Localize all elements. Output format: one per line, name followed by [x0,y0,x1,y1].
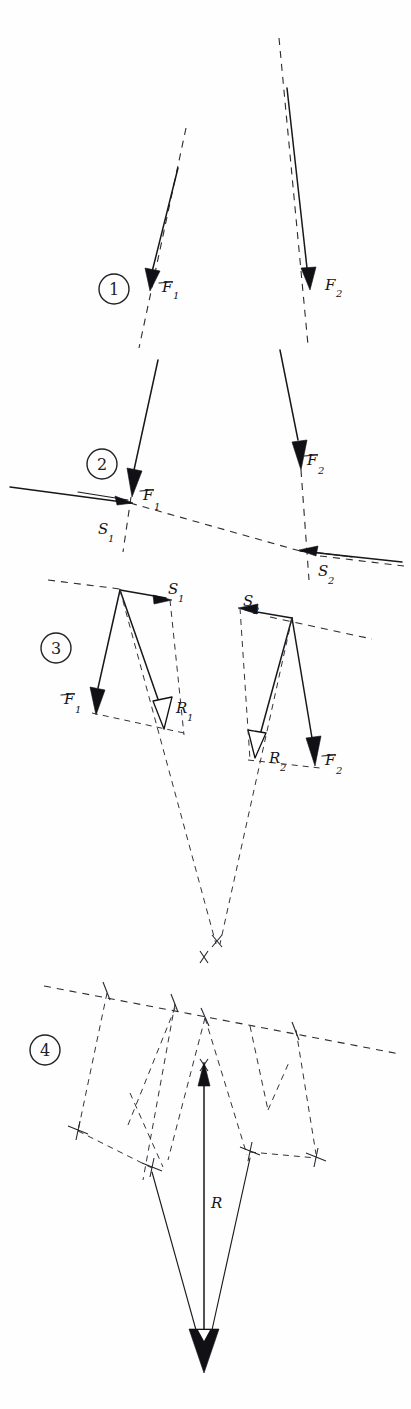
step4-tick-line-c [201,1008,209,1026]
step-3-label-f1-sub: 1 [75,704,81,715]
f1-vector-shaft [152,168,178,272]
step4-tick-cross-left [68,1121,88,1140]
step4-dash-left-outer [78,993,107,1131]
step2-f2-arrowhead [292,440,307,470]
r-converge-right [212,1158,250,1330]
step-2-label-s1-sub: 1 [108,533,114,544]
step-1-label-f2-sub: 2 [335,288,342,299]
step-2-label-s2-sub: 2 [327,575,334,586]
step-1-group: 1 F 1 F 2 [99,38,342,348]
r-vector-arrowhead-up [198,1062,210,1086]
step-3-label-r1-sub: 1 [187,712,193,723]
f1-line-of-action-upper [139,128,186,348]
f2-line-of-action-upper [279,38,308,345]
step-4-number: 4 [40,1041,50,1060]
step-3-label-s2-base: S [243,592,253,610]
step3-r1-arrowhead [153,697,172,729]
step2-f1-shaft [134,360,158,470]
f2-arrowhead [301,267,316,290]
step-1-label-f2: F 2 [324,276,342,299]
step-3-label-f2: F 2 [322,751,342,776]
step-1-label-f1-base: F [161,278,173,296]
step3-r2-arrowhead [248,730,266,758]
step-3-label-r2-base: R [268,749,280,767]
step-2-label-s2: S 2 [318,562,334,586]
step-2-label-f2: F 2 [304,451,324,476]
step-3-group: 3 S 1 S 2 F 1 R 1 R 2 F 2 [41,580,372,947]
step-3-number: 3 [51,639,61,658]
step4-dash-left-inner [143,1004,175,1180]
step-3-label-r2-sub: 2 [279,762,286,773]
step-4-label-r-base: R [210,1194,222,1212]
step3-f1-shaft [98,590,120,688]
drawing-sheet: 1 F 1 F 2 [0,0,411,1409]
r1-line-of-action [120,590,216,944]
step-2-label-f2-base: F [306,451,318,469]
step2-f2-dashed-below [301,470,309,580]
step4-dash-left-cross [78,1131,152,1168]
step3-action-line-right [270,617,372,639]
step2-f1-arrowhead [127,468,142,497]
step2-f1-dashed-below [123,497,131,552]
step-2-label-s2-base: S [318,562,328,580]
step4-dash-right-inner [250,1026,268,1110]
step4-dash-right-outer [296,1030,316,1154]
step3-f2-arrowhead [306,736,321,766]
step-3-label-s1-base: S [168,580,178,598]
step-2-label-f1-base: F [142,486,154,504]
step-3-label-f1: F 1 [61,690,81,715]
s2-arrowhead [299,546,318,556]
step-4-group: 4 R [30,951,400,1373]
step-2-label-f1: F 1 [140,486,160,512]
step-2-label-s1-base: S [98,520,108,538]
step-2-label-s1: S 1 [98,520,114,544]
f1-arrowhead [145,268,160,291]
step4-dash-center-left [168,1018,205,1160]
step3-left-par-dash-bottom [92,713,184,733]
step4-dash-left-crosslow [128,1008,175,1125]
force-composition-figure: 1 F 1 F 2 [0,0,411,1409]
step3-action-line-left [48,580,120,589]
step3-f2-shaft [292,618,312,738]
r2-line-of-action [220,618,292,944]
step-1-label-f1-sub: 1 [173,290,179,301]
step4-action-line [44,986,400,1054]
step-2-number: 2 [97,455,107,474]
step3-r2-shaft [260,618,292,735]
r-converge-left [152,1172,196,1330]
step-3-label-f1-base: F [63,690,75,708]
step3-r1-shaft [120,590,160,705]
step-3-label-r1: R 1 [175,699,193,723]
step3-right-par-dash-left [240,608,250,760]
step-1-label-f2-base: F [324,276,336,294]
step4-dash-right-short [268,1060,290,1110]
f2-vector-shaft [287,88,307,268]
action-line-left-solid [10,487,130,503]
step3-f1-arrowhead [90,687,105,715]
step-2-group: 2 F 1 F 2 S 1 S 2 [10,350,404,586]
step-3-label-f2-base: F [324,751,336,769]
step2-f2-shaft [280,350,298,440]
step-1-label-f1: F 1 [159,278,179,301]
step-4-label-r: R [210,1194,222,1212]
step4-tick-line-d [292,1022,299,1040]
step-2-label-f2-sub: 2 [317,465,324,476]
step4-tick-convergence-top [200,951,208,963]
step4-dash-left-short [130,1093,163,1167]
step-3-label-f2-sub: 2 [335,765,342,776]
step-2-label-f1-sub: 1 [154,501,160,512]
step-3-label-s2-sub: 2 [252,605,259,616]
step-3-label-r2: R 2 [268,749,286,773]
step4-dash-center-right [205,1018,247,1155]
step-3-label-r1-base: R [175,699,187,717]
step-1-number: 1 [109,280,119,299]
step-3-label-s1-sub: 1 [178,593,184,604]
